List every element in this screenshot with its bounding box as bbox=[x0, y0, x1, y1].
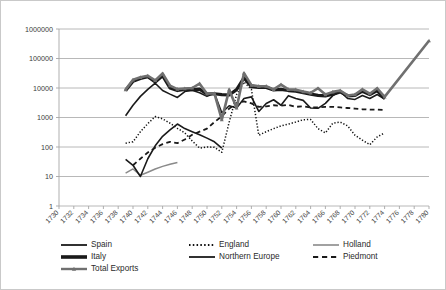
legend-label: Spain bbox=[91, 240, 112, 249]
y-tick-label-1000000: 1000000 bbox=[25, 25, 53, 34]
x-tick-label-1738: 1738 bbox=[103, 209, 119, 225]
legend-item-northern-europe[interactable]: Northern Europe bbox=[189, 252, 280, 261]
x-tick-label-1778: 1778 bbox=[399, 209, 415, 225]
x-tick-label-1750: 1750 bbox=[192, 209, 208, 225]
x-tick-label-1760: 1760 bbox=[266, 209, 282, 225]
x-tick-label-1770: 1770 bbox=[340, 209, 356, 225]
chart-figure-frame: 1101001000100001000001000000 17301732173… bbox=[0, 0, 446, 290]
x-tick-label-1756: 1756 bbox=[236, 209, 252, 225]
legend-label: Northern Europe bbox=[219, 252, 280, 261]
y-tick-label-10: 10 bbox=[45, 172, 53, 181]
x-tick-label-1740: 1740 bbox=[118, 209, 134, 225]
legend-label: Holland bbox=[343, 240, 371, 249]
x-tick-label-1736: 1736 bbox=[88, 209, 104, 225]
y-axis-tick-labels: 1101001000100001000001000000 bbox=[25, 25, 59, 211]
x-tick-label-1746: 1746 bbox=[162, 209, 178, 225]
y-tick-label-100000: 100000 bbox=[29, 54, 53, 63]
x-tick-label-1734: 1734 bbox=[74, 209, 90, 225]
x-tick-label-1772: 1772 bbox=[355, 209, 371, 225]
legend-item-holland[interactable]: Holland bbox=[313, 240, 371, 249]
legend-item-england[interactable]: England bbox=[189, 240, 249, 249]
x-tick-label-1758: 1758 bbox=[251, 209, 267, 225]
legend-label: Total Exports bbox=[91, 264, 138, 273]
legend-item-piedmont[interactable]: Piedmont bbox=[313, 252, 378, 261]
legend-label: Italy bbox=[91, 252, 107, 261]
chart-legend: SpainEnglandHollandItalyNorthern EuropeP… bbox=[61, 240, 378, 273]
y-tick-label-1: 1 bbox=[49, 202, 53, 211]
x-tick-label-1748: 1748 bbox=[177, 209, 193, 225]
y-tick-label-10000: 10000 bbox=[33, 84, 53, 93]
x-tick-label-1762: 1762 bbox=[281, 209, 297, 225]
x-tick-label-1780: 1780 bbox=[414, 209, 430, 225]
x-tick-label-1774: 1774 bbox=[370, 209, 386, 225]
legend-label: Piedmont bbox=[343, 252, 378, 261]
series-line-total-exports bbox=[126, 41, 429, 120]
x-axis-tick-labels: 1730173217341736173817401742174417461748… bbox=[44, 206, 430, 224]
x-tick-label-1730: 1730 bbox=[44, 209, 60, 225]
y-tick-label-1000: 1000 bbox=[37, 113, 53, 122]
x-tick-label-1732: 1732 bbox=[59, 209, 75, 225]
legend-item-spain[interactable]: Spain bbox=[61, 240, 112, 249]
x-tick-label-1742: 1742 bbox=[133, 209, 149, 225]
legend-label: England bbox=[219, 240, 249, 249]
gridlines-group bbox=[59, 29, 429, 206]
y-tick-label-100: 100 bbox=[41, 143, 53, 152]
x-tick-label-1768: 1768 bbox=[325, 209, 341, 225]
data-series-group bbox=[124, 39, 431, 177]
x-tick-label-1764: 1764 bbox=[296, 209, 312, 225]
x-tick-label-1766: 1766 bbox=[310, 209, 326, 225]
line-chart-svg: 1101001000100001000001000000 17301732173… bbox=[1, 1, 446, 290]
x-tick-label-1744: 1744 bbox=[148, 209, 164, 225]
x-tick-label-1776: 1776 bbox=[384, 209, 400, 225]
x-tick-label-1754: 1754 bbox=[222, 209, 238, 225]
legend-item-italy[interactable]: Italy bbox=[61, 252, 107, 261]
chart-area: 1101001000100001000001000000 17301732173… bbox=[1, 1, 446, 290]
x-tick-label-1752: 1752 bbox=[207, 209, 223, 225]
legend-item-total-exports[interactable]: Total Exports bbox=[61, 264, 138, 273]
